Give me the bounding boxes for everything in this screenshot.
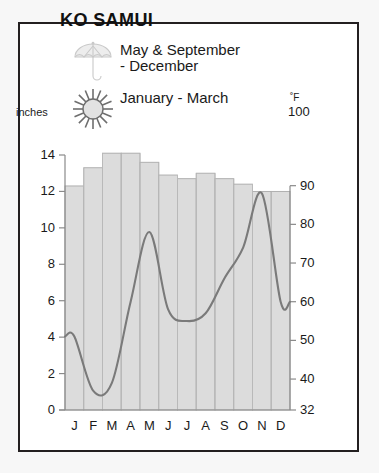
chart-frame bbox=[18, 22, 359, 452]
right-axis-title: ˚F bbox=[290, 92, 299, 103]
right-axis-top-value: 100 bbox=[288, 104, 310, 119]
chart-page: KO SAMUI May & September - December bbox=[0, 0, 379, 473]
sun-icon bbox=[70, 88, 116, 130]
left-axis-title: inches bbox=[16, 106, 48, 118]
legend-item-dry: January - March bbox=[70, 88, 228, 130]
page-title: KO SAMUI bbox=[60, 10, 153, 31]
umbrella-icon bbox=[70, 40, 116, 82]
legend-label-dry: January - March bbox=[116, 88, 228, 106]
legend-label-rainy: May & September - December bbox=[116, 40, 240, 74]
legend-item-rainy: May & September - December bbox=[70, 40, 240, 82]
